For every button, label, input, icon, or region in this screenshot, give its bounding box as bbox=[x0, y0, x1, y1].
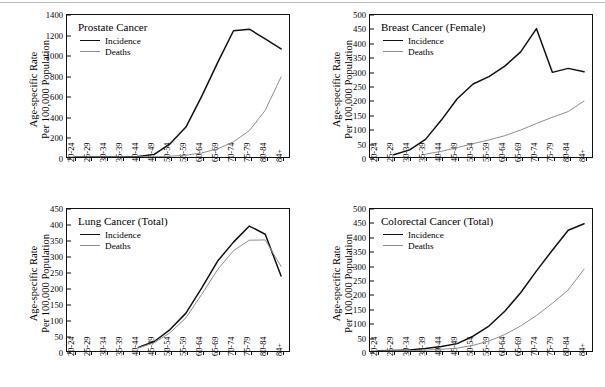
y-tick-label: 400 bbox=[353, 39, 366, 49]
y-tick-label: 300 bbox=[50, 252, 63, 262]
chart-panel-prostate: Age-specific RatePer 100,000 Population0… bbox=[0, 0, 302, 193]
y-tick-label: 450 bbox=[50, 204, 63, 214]
y-tick-label: 800 bbox=[50, 72, 63, 82]
legend-item-deaths: Deaths bbox=[381, 240, 493, 251]
plot-area-lung: 05010015020025030035040045020-2425-2930-… bbox=[66, 208, 290, 352]
legend-line-incidence-icon bbox=[80, 234, 100, 235]
y-tick-label: 250 bbox=[50, 268, 63, 278]
series-line-deaths bbox=[75, 77, 281, 157]
chart-panel-lung: Age-specific RatePer 100,000 Population0… bbox=[0, 194, 302, 387]
legend-line-incidence-icon bbox=[383, 234, 403, 235]
y-tick-label: 600 bbox=[50, 92, 63, 102]
y-tick-label: 1200 bbox=[46, 31, 63, 41]
y-tick-label: 300 bbox=[353, 68, 366, 78]
y-axis-title: Age-specific RatePer 100,000 Population bbox=[331, 209, 354, 359]
y-tick-label: 350 bbox=[353, 53, 366, 63]
y-tick-label: 50 bbox=[357, 334, 366, 344]
legend-line-incidence-icon bbox=[383, 40, 403, 41]
y-tick-label: 250 bbox=[353, 82, 366, 92]
legend-line-incidence-icon bbox=[80, 40, 100, 41]
y-tick-label: 400 bbox=[50, 220, 63, 230]
panel-title: Prostate Cancer bbox=[78, 21, 147, 33]
legend-item-incidence: Incidence bbox=[381, 229, 493, 240]
y-tick-label: 400 bbox=[353, 233, 366, 243]
legend-lung: Lung Cancer (Total)IncidenceDeaths bbox=[78, 215, 168, 251]
legend-line-deaths-icon bbox=[383, 245, 403, 246]
y-tick-label: 200 bbox=[50, 284, 63, 294]
legend-label-incidence: Incidence bbox=[105, 230, 141, 240]
y-axis-title-line1: Age-specific Rate bbox=[331, 209, 343, 359]
legend-item-incidence: Incidence bbox=[78, 35, 147, 46]
legend-breast: Breast Cancer (Female)IncidenceDeaths bbox=[381, 21, 485, 57]
legend-label-deaths: Deaths bbox=[105, 241, 131, 251]
y-tick-label: 200 bbox=[353, 96, 366, 106]
series-line-deaths bbox=[138, 240, 281, 348]
plot-area-colorectal: 05010015020025030035040045050020-2425-29… bbox=[369, 208, 593, 352]
chart-panel-breast: Age-specific RatePer 100,000 Population0… bbox=[303, 0, 605, 193]
y-tick-label: 350 bbox=[50, 236, 63, 246]
y-axis-title: Age-specific RatePer 100,000 Population bbox=[28, 209, 51, 359]
legend-label-deaths: Deaths bbox=[105, 47, 131, 57]
y-tick-label: 300 bbox=[353, 262, 366, 272]
y-axis-title: Age-specific RatePer 100,000 Population bbox=[331, 15, 354, 165]
y-tick-label: 0 bbox=[362, 154, 366, 164]
y-tick-label: 150 bbox=[353, 111, 366, 121]
y-tick-label: 50 bbox=[357, 140, 366, 150]
y-tick-label: 0 bbox=[362, 348, 366, 358]
y-tick-label: 100 bbox=[50, 316, 63, 326]
y-tick-label: 150 bbox=[50, 300, 63, 310]
y-tick-label: 100 bbox=[353, 125, 366, 135]
y-axis-title-line1: Age-specific Rate bbox=[28, 15, 40, 165]
legend-colorectal: Colorectal Cancer (Total)IncidenceDeaths bbox=[381, 215, 493, 251]
legend-item-deaths: Deaths bbox=[78, 46, 147, 57]
legend-label-incidence: Incidence bbox=[105, 36, 141, 46]
y-tick-label: 350 bbox=[353, 247, 366, 257]
plot-area-breast: 05010015020025030035040045050020-2425-29… bbox=[369, 14, 593, 158]
panel-title: Breast Cancer (Female) bbox=[381, 21, 485, 33]
plot-area-prostate: 020040060080010001200140020-2425-2930-34… bbox=[66, 14, 290, 158]
y-tick-label: 100 bbox=[353, 319, 366, 329]
y-axis-title-line2: Per 100,000 Population bbox=[39, 209, 51, 359]
y-tick-label: 250 bbox=[353, 276, 366, 286]
y-axis-title-line2: Per 100,000 Population bbox=[342, 209, 354, 359]
y-tick-label: 0 bbox=[59, 154, 63, 164]
legend-prostate: Prostate CancerIncidenceDeaths bbox=[78, 21, 147, 57]
legend-line-deaths-icon bbox=[80, 51, 100, 52]
series-line-deaths bbox=[378, 269, 584, 351]
legend-label-incidence: Incidence bbox=[408, 36, 444, 46]
legend-line-deaths-icon bbox=[80, 245, 100, 246]
y-tick-label: 500 bbox=[353, 10, 366, 20]
y-axis-title-line2: Per 100,000 Population bbox=[342, 15, 354, 165]
y-tick-label: 450 bbox=[353, 218, 366, 228]
y-tick-label: 200 bbox=[353, 290, 366, 300]
legend-line-deaths-icon bbox=[383, 51, 403, 52]
panel-title: Colorectal Cancer (Total) bbox=[381, 215, 493, 227]
legend-label-deaths: Deaths bbox=[408, 241, 434, 251]
chart-panel-colorectal: Age-specific RatePer 100,000 Population0… bbox=[303, 194, 605, 387]
y-tick-label: 400 bbox=[50, 113, 63, 123]
y-axis-title-line1: Age-specific Rate bbox=[331, 15, 343, 165]
y-axis-title-line1: Age-specific Rate bbox=[28, 209, 40, 359]
y-tick-label: 1400 bbox=[46, 10, 63, 20]
legend-item-deaths: Deaths bbox=[78, 240, 168, 251]
y-tick-label: 0 bbox=[59, 348, 63, 358]
legend-item-incidence: Incidence bbox=[78, 229, 168, 240]
legend-item-deaths: Deaths bbox=[381, 46, 485, 57]
y-tick-label: 450 bbox=[353, 24, 366, 34]
legend-label-incidence: Incidence bbox=[408, 230, 444, 240]
y-tick-label: 150 bbox=[353, 305, 366, 315]
legend-label-deaths: Deaths bbox=[408, 47, 434, 57]
y-tick-label: 200 bbox=[50, 133, 63, 143]
y-tick-label: 1000 bbox=[46, 51, 63, 61]
legend-item-incidence: Incidence bbox=[381, 35, 485, 46]
y-tick-label: 500 bbox=[353, 204, 366, 214]
y-tick-label: 50 bbox=[54, 332, 63, 342]
panel-title: Lung Cancer (Total) bbox=[78, 215, 168, 227]
